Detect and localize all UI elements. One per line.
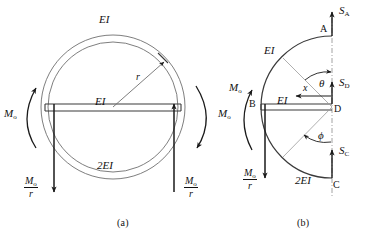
semicircle-arc [261,36,332,178]
panel-b-point-d-label: D [334,104,341,114]
moment-left-subscript: o [13,113,17,121]
panel-a-bottom-stiffness-label: 2EI [97,160,113,171]
panel-b-shear-numerator: Mo [243,168,257,178]
panel-a-geometry [27,35,206,192]
panel-a-caption: (a) [117,218,129,228]
figure-canvas: EI EI 2EI r Mo Mo Mo r Mo r (a) A B C D … [0,0,369,240]
panel-b-point-c-label: C [333,180,340,190]
figure-vector-layer [0,0,369,240]
panel-b-bottom-stiffness-label: 2EI [295,175,311,186]
panel-a-moment-right-label: Mo [218,108,231,119]
radial-ray-theta [283,58,332,107]
reaction-d-subscript: D [345,82,350,90]
shear-left-denominator: r [24,188,38,199]
reaction-c-subscript: C [345,150,350,158]
angle-arc-theta [305,72,331,80]
panel-a-radius-label: r [136,72,140,82]
moment-left-symbol: M [4,107,13,119]
moment-arrow-right [196,86,206,148]
reaction-d-symbol: S [339,76,345,88]
panel-b-mid-stiffness-label: EI [277,95,287,106]
shear-left-numerator: Mo [24,176,38,186]
panel-a-mid-stiffness-label: EI [95,96,105,107]
shear-right-numerator: Mo [184,176,198,186]
radius-arrow [113,62,164,107]
panel-a-top-stiffness-label: EI [99,14,109,25]
panel-b-geometry [244,12,332,196]
panel-b-angle-phi-label: ϕ [318,130,324,141]
radial-ray-phi [283,107,332,157]
panel-b-shear-denominator: r [243,180,257,191]
panel-b-moment-symbol: M [229,81,238,93]
panel-b-moment-subscript: o [238,87,242,95]
panel-b-angle-theta-label: θ [319,78,324,89]
panel-b-reaction-a-label: SA [339,5,350,16]
moment-right-symbol: M [218,107,227,119]
panel-b-point-b-label: B [249,99,256,109]
panel-b-point-a-label: A [320,24,327,34]
panel-a-shear-left-fraction: Mo r [24,176,38,199]
moment-right-subscript: o [227,113,231,121]
panel-b-reaction-c-label: SC [339,145,349,156]
panel-b-reaction-d-label: SD [339,77,350,88]
reaction-c-symbol: S [339,144,345,156]
panel-b-caption: (b) [297,218,309,228]
reaction-a-symbol: S [339,4,345,16]
shear-right-denominator: r [184,188,198,199]
panel-a-moment-left-label: Mo [4,108,17,119]
panel-b-shear-fraction: Mo r [243,168,257,191]
moment-arrow-left [27,88,36,148]
panel-b-top-stiffness-label: EI [264,45,274,56]
panel-b-moment-label: Mo [229,82,242,93]
panel-a-shear-right-fraction: Mo r [184,176,198,199]
reaction-a-subscript: A [345,10,350,18]
panel-b-coord-x-label: x [303,83,307,93]
